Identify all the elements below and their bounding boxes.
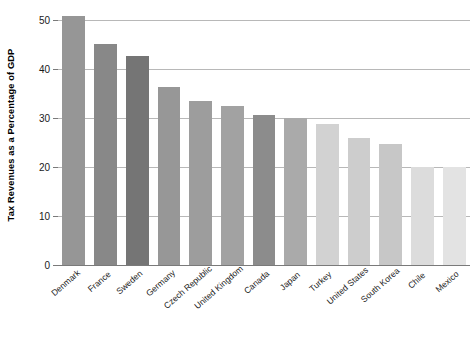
x-label-anchor: Denmark (74, 269, 75, 270)
x-label-anchor: Canada (264, 269, 265, 270)
plot-area (58, 10, 470, 265)
x-label-anchor: Japan (296, 269, 297, 270)
x-tick-label: Canada (242, 268, 271, 295)
bar[interactable] (348, 138, 371, 266)
x-axis-labels: DenmarkFranceSwedenGermanyCzech Republic… (58, 266, 470, 347)
x-tick-label: France (85, 269, 112, 294)
bar[interactable] (379, 144, 402, 265)
x-label-anchor: Chile (422, 269, 423, 270)
x-tick-label: Mexico (434, 269, 461, 294)
bar[interactable] (411, 167, 434, 265)
x-label-anchor: France (106, 269, 107, 270)
bar[interactable] (443, 167, 466, 265)
x-label-anchor: Mexico (454, 269, 455, 270)
y-axis-title-label: Tax Revenues as a Percentage of GDP (6, 49, 16, 222)
bar[interactable] (284, 118, 307, 265)
x-label-anchor: South Korea (391, 269, 392, 270)
y-tick-mark (53, 118, 58, 119)
bar[interactable] (126, 56, 149, 265)
bar[interactable] (253, 115, 276, 265)
y-tick-mark (53, 167, 58, 168)
y-tick-mark (53, 69, 58, 70)
y-tick-mark (53, 20, 58, 21)
x-label-anchor: United Kingdom (232, 269, 233, 270)
x-label-anchor: Turkey (327, 269, 328, 270)
bar[interactable] (221, 106, 244, 265)
bar[interactable] (189, 101, 212, 265)
y-tick-mark (53, 216, 58, 217)
y-axis-title: Tax Revenues as a Percentage of GDP (0, 0, 22, 270)
bar-chart: Tax Revenues as a Percentage of GDP 0102… (0, 0, 474, 347)
bar[interactable] (62, 16, 85, 265)
x-tick-label: Chile (406, 270, 427, 290)
x-tick-label: Turkey (308, 269, 334, 294)
bar[interactable] (316, 124, 339, 265)
x-tick-label: Denmark (49, 268, 82, 298)
y-tick-label: 10 (10, 210, 50, 221)
y-tick-label: 50 (10, 14, 50, 25)
y-tick-label: 0 (10, 260, 50, 271)
x-label-anchor: Czech Republic (201, 269, 202, 270)
gridline (58, 69, 470, 70)
gridline (58, 20, 470, 21)
y-tick-label: 40 (10, 63, 50, 74)
x-label-anchor: Germany (169, 269, 170, 270)
x-label-anchor: Sweden (137, 269, 138, 270)
y-tick-label: 20 (10, 161, 50, 172)
bar[interactable] (94, 44, 117, 265)
x-tick-label: Japan (277, 270, 301, 293)
bar[interactable] (158, 87, 181, 265)
x-label-anchor: United States (359, 269, 360, 270)
y-tick-label: 30 (10, 112, 50, 123)
x-tick-label: Sweden (115, 268, 145, 296)
